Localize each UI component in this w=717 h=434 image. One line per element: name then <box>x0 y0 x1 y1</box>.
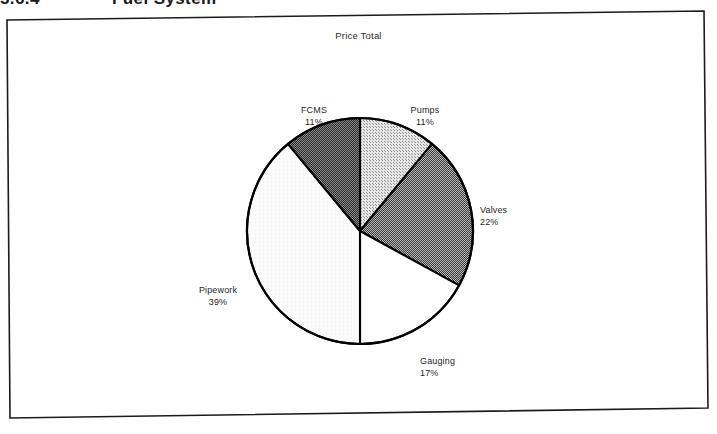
slice-label-pumps: Pumps 11% <box>392 104 458 128</box>
slice-label-pumps-percent: 11% <box>392 116 458 128</box>
slice-label-fcms-name: FCMS <box>281 104 347 116</box>
pie-chart <box>235 106 485 356</box>
slice-label-pumps-name: Pumps <box>392 104 458 116</box>
pie-slices <box>247 118 473 344</box>
chart-title: Price Total <box>0 30 717 41</box>
slice-label-gauging-percent: 17% <box>420 367 490 379</box>
slice-label-gauging: Gauging 17% <box>420 355 490 379</box>
slice-label-valves-percent: 22% <box>480 216 550 228</box>
slice-label-fcms: FCMS 11% <box>281 104 347 128</box>
slice-label-fcms-percent: 11% <box>281 116 347 128</box>
slice-label-pipework: Pipework 39% <box>178 284 258 308</box>
slice-label-pipework-percent: 39% <box>178 296 258 308</box>
slice-label-pipework-name: Pipework <box>178 284 258 296</box>
slice-label-gauging-name: Gauging <box>420 355 490 367</box>
section-heading: Fuel System <box>112 0 217 8</box>
chart-area: Price Total <box>0 8 717 426</box>
slice-label-valves: Valves 22% <box>480 204 550 228</box>
slice-label-valves-name: Valves <box>480 204 550 216</box>
